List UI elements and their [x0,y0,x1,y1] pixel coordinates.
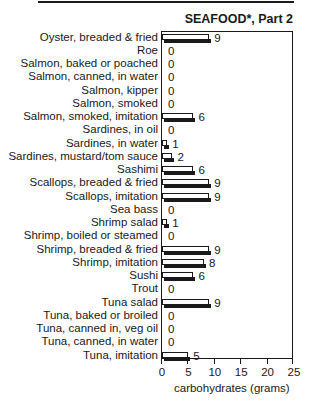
bar [162,113,193,119]
value-label: 5 [193,350,199,363]
category-label: Tuna, canned in, veg oil [36,322,158,335]
value-label: 0 [168,85,174,98]
x-tick [161,359,162,364]
category-label: Tuna, baked or broiled [43,309,158,322]
bar [162,34,209,40]
x-tick-label: 5 [185,366,191,378]
category-label: Tuna, imitation [83,349,158,362]
x-tick [214,359,215,364]
value-label: 0 [168,98,174,111]
category-label: Tuna, canned, in water [41,335,158,348]
value-label: 0 [168,204,174,217]
category-label: Scallops, breaded & fried [30,176,159,189]
category-label: Oyster, breaded & fried [40,31,158,44]
value-label: 6 [198,111,204,124]
value-label: 0 [168,45,174,58]
category-label: Sushi [129,269,158,282]
value-label: 2 [177,151,183,164]
category-label: Salmon, smoked [72,97,158,110]
bar [162,153,172,159]
bar [162,352,188,358]
x-tick [187,359,188,364]
value-label: 6 [198,270,204,283]
bar [162,140,167,146]
bar [162,166,193,172]
bar [162,219,167,225]
value-label: 6 [198,164,204,177]
category-label: Salmon, kipper [81,84,158,97]
bar [162,193,209,199]
x-tick-label: 10 [208,366,221,378]
x-tick-label: 15 [235,366,248,378]
x-axis-label: carbohydrates (grams) [174,382,290,394]
chart-title: SEAFOOD*, Part 2 [185,12,293,26]
category-label: Roe [137,44,158,57]
category-label: Scallops, imitation [65,190,158,203]
category-label: Salmon, canned, in water [28,70,158,83]
value-label: 0 [168,310,174,323]
bar [162,259,204,265]
value-label: 0 [168,283,174,296]
x-tick [292,359,293,364]
category-label: Sea bass [110,203,158,216]
x-tick-label: 0 [159,366,165,378]
category-label: Sardines, in water [66,137,158,150]
value-label: 1 [172,138,178,151]
value-label: 0 [168,124,174,137]
category-label: Sardines, mustard/tom sauce [8,150,158,163]
value-label: 9 [214,191,220,204]
bar [162,272,193,278]
value-label: 0 [168,336,174,349]
value-label: 0 [168,323,174,336]
category-label: Shrimp, breaded & fried [37,243,158,256]
value-label: 9 [214,32,220,45]
category-label: Sashimi [117,163,158,176]
bar [162,246,209,252]
value-label: 0 [168,71,174,84]
category-label: Shrimp, imitation [72,256,158,269]
top-rule [38,1,294,3]
category-label: Salmon, baked or poached [21,57,158,70]
value-label: 9 [214,244,220,257]
category-label: Sardines, in oil [83,123,158,136]
bar [162,179,209,185]
value-label: 1 [172,217,178,230]
x-tick-label: 20 [261,366,274,378]
category-label: Salmon, smoked, imitation [23,110,158,123]
value-label: 0 [168,230,174,243]
value-label: 9 [214,177,220,190]
category-label: Trout [132,282,158,295]
value-label: 9 [214,297,220,310]
category-label: Shrimp salad [91,216,158,229]
category-label: Tuna salad [102,296,158,309]
bar [162,299,209,305]
x-tick-label: 25 [288,366,301,378]
value-label: 0 [168,58,174,71]
category-label: Shrimp, boiled or steamed [24,229,158,242]
x-tick [267,359,268,364]
value-label: 8 [209,257,215,270]
x-tick [240,359,241,364]
